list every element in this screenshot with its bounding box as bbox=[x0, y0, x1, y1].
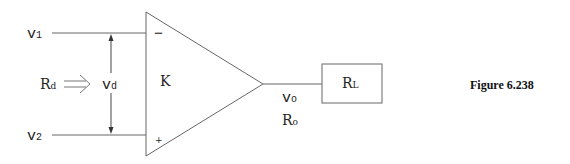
rd-double-arrow-icon bbox=[64, 75, 90, 93]
gain-label: K bbox=[160, 73, 171, 89]
v1-label: v1 bbox=[27, 26, 42, 43]
vd-arrow-down-icon bbox=[109, 127, 114, 134]
inverting-sign: − bbox=[154, 26, 163, 43]
figure-caption: Figure 6.238 bbox=[470, 78, 534, 93]
vo-label: vo bbox=[282, 90, 297, 107]
ro-label: Ro bbox=[282, 112, 298, 128]
rl-label: RL bbox=[342, 75, 359, 91]
noninverting-sign: + bbox=[155, 135, 163, 145]
vd-arrow-up-icon bbox=[109, 34, 114, 41]
v2-label: v2 bbox=[27, 128, 42, 145]
rd-label: Rd bbox=[40, 76, 57, 92]
